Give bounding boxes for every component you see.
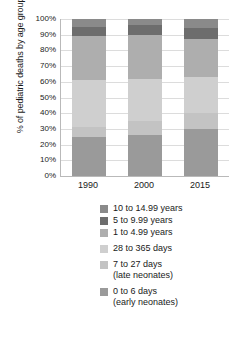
bar-segment: [184, 129, 218, 176]
y-tick-label: 40%: [40, 109, 56, 117]
legend-label: 7 to 27 days(late neonates): [113, 259, 173, 281]
legend-label-sub: (early neonates): [113, 297, 178, 308]
bar-column-2000: [128, 19, 162, 176]
bar-segment: [128, 135, 162, 176]
bar-segment: [184, 39, 218, 77]
legend-label: 5 to 9.99 years: [113, 215, 173, 226]
y-tick-label: 90%: [40, 31, 56, 39]
bar-segment: [72, 36, 106, 80]
x-tick-label-2000: 2000: [121, 180, 167, 191]
legend-label-sub: (late neonates): [113, 270, 173, 281]
bar-segment: [128, 121, 162, 135]
legend-label: 1 to 4.99 years: [113, 227, 173, 238]
legend-item: 1 to 4.99 years: [100, 227, 240, 238]
bar-segment: [72, 80, 106, 127]
y-tick-label: 20%: [40, 141, 56, 149]
bar-segment: [128, 35, 162, 79]
bars-layer: [61, 19, 229, 176]
bar-segment: [128, 19, 162, 25]
legend-item: 0 to 6 days(early neonates): [100, 286, 240, 308]
legend-swatch-icon: [100, 217, 108, 225]
y-tick-label: 100%: [36, 15, 56, 23]
bar-segment: [72, 127, 106, 136]
y-tick-label: 10%: [40, 156, 56, 164]
bar-column-2015: [184, 19, 218, 176]
legend-label: 10 to 14.99 years: [113, 203, 183, 214]
y-tick-label: 60%: [40, 78, 56, 86]
x-axis-tick-labels: 199020002015: [60, 180, 228, 194]
chart-legend: 10 to 14.99 years5 to 9.99 years1 to 4.9…: [100, 203, 240, 309]
bar-segment: [184, 28, 218, 39]
legend-item: 10 to 14.99 years: [100, 203, 240, 214]
legend-swatch-icon: [100, 261, 108, 269]
legend-item: 7 to 27 days(late neonates): [100, 259, 240, 281]
bar-segment: [72, 137, 106, 176]
y-tick-label: 0%: [44, 172, 56, 180]
bar-segment: [128, 25, 162, 34]
bar-column-1990: [72, 19, 106, 176]
y-tick-label: 30%: [40, 125, 56, 133]
bar-segment: [184, 19, 218, 28]
bar-segment: [128, 79, 162, 121]
y-axis-title: % of pediatric deaths by age group: [15, 0, 26, 141]
stacked-bar-chart: % of pediatric deaths by age group 0%10%…: [0, 0, 244, 200]
legend-label: 0 to 6 days(early neonates): [113, 286, 178, 308]
legend-swatch-icon: [100, 205, 108, 213]
y-tick-label: 50%: [40, 94, 56, 102]
x-tick-label-2015: 2015: [177, 180, 223, 191]
x-tick-label-1990: 1990: [65, 180, 111, 191]
bar-segment: [72, 27, 106, 36]
y-tick-label: 80%: [40, 46, 56, 54]
plot-area: [60, 19, 229, 177]
legend-item: 5 to 9.99 years: [100, 215, 240, 226]
y-tick-label: 70%: [40, 62, 56, 70]
bar-segment: [72, 19, 106, 27]
legend-swatch-icon: [100, 245, 108, 253]
bar-segment: [184, 77, 218, 113]
legend-swatch-icon: [100, 288, 108, 296]
y-axis-tick-labels: 0%10%20%30%40%50%60%70%80%90%100%: [26, 19, 56, 176]
legend-item: 28 to 365 days: [100, 243, 240, 254]
legend-swatch-icon: [100, 229, 108, 237]
legend-label: 28 to 365 days: [113, 243, 172, 254]
bar-segment: [184, 113, 218, 129]
